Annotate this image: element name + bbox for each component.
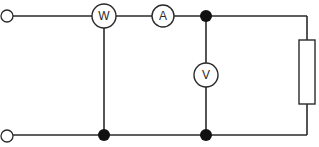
input-terminal-bottom-icon: [1, 130, 13, 142]
junction-bottom-right-icon: [200, 129, 212, 141]
resistor-load-icon: [299, 40, 315, 104]
wattmeter-label: W: [92, 4, 116, 28]
ammeter-label: A: [151, 4, 175, 28]
voltmeter-label: V: [194, 63, 218, 87]
circuit-diagram: W A V: [0, 0, 319, 147]
junction-bottom-left-icon: [98, 129, 110, 141]
junction-top-icon: [200, 10, 212, 22]
input-terminal-top-icon: [1, 10, 13, 22]
